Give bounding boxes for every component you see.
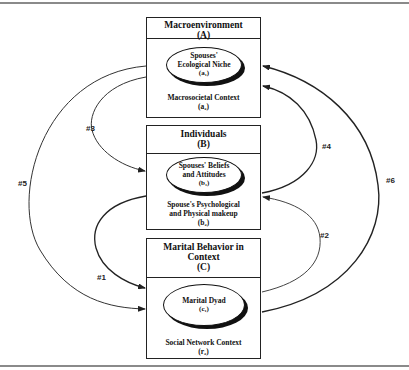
box-c-header: Marital Behavior in Context (C) [147, 239, 260, 278]
box-b-context-symbol: (b₂) [147, 218, 260, 227]
arrow-label-6: #6 [386, 176, 395, 185]
ellipse-a-symbol: (a₁) [199, 69, 209, 78]
arrow-label-4: #4 [322, 142, 331, 151]
ellipse-a: Spouses' Ecological Niche (a₁) [166, 47, 242, 83]
arrow-label-2: #2 [320, 231, 329, 240]
box-macroenvironment: Macroenvironment (A) Spouses' Ecological… [146, 17, 261, 118]
arrow-label-1: #1 [97, 273, 106, 282]
arrow-4 [262, 86, 317, 193]
ellipse-a-line2: Ecological Niche [177, 61, 230, 70]
ellipse-b-line2: and Attitudes [182, 171, 225, 180]
box-a-title: Macroenvironment [149, 20, 258, 30]
ellipse-c-line1: Marital Dyad [182, 297, 226, 306]
box-c-letter: (C) [149, 262, 258, 272]
arrow-label-5: #5 [18, 179, 27, 188]
box-c-title-line1: Marital Behavior in [149, 242, 258, 252]
box-b-context: Spouse's Psychological and Physical make… [147, 200, 260, 227]
arrow-2 [262, 197, 320, 292]
box-b-letter: (B) [149, 139, 258, 149]
box-c-title-line2: Context [149, 252, 258, 262]
arrow-3 [91, 77, 146, 171]
ellipse-b: Spouses' Beliefs and Attitudes (b₁) [166, 157, 242, 193]
ellipse-beliefs-attitudes: Spouses' Beliefs and Attitudes (b₁) [166, 157, 244, 195]
box-a-context-label: Macrosocietal Context [147, 93, 260, 102]
box-a-context-symbol: (a₂) [147, 102, 260, 111]
ellipse-c: Marital Dyad (c₁) [163, 284, 245, 326]
box-a-letter: (A) [149, 30, 258, 40]
arrow-label-3: #3 [86, 124, 95, 133]
box-c-context-label: Social Network Context [147, 338, 260, 347]
box-b-header: Individuals (B) [147, 126, 260, 154]
box-c-context: Social Network Context (r₂) [147, 338, 260, 356]
arrow-5 [29, 66, 146, 309]
box-b-context-line2: and Physical makeup [147, 209, 260, 218]
ellipse-b-symbol: (b₁) [199, 179, 210, 188]
box-individuals: Individuals (B) Spouses' Beliefs and Att… [146, 125, 261, 230]
box-b-title: Individuals [149, 129, 258, 139]
box-a-header: Macroenvironment (A) [147, 18, 260, 39]
ellipse-ecological-niche: Spouses' Ecological Niche (a₁) [166, 47, 244, 85]
box-c-context-symbol: (r₂) [147, 347, 260, 356]
ellipse-c-symbol: (c₁) [199, 305, 209, 314]
box-marital-behavior: Marital Behavior in Context (C) Marital … [146, 238, 261, 359]
box-a-context: Macrosocietal Context (a₂) [147, 93, 260, 111]
box-b-context-line1: Spouse's Psychological [147, 200, 260, 209]
ellipse-marital-dyad: Marital Dyad (c₁) [163, 284, 247, 328]
